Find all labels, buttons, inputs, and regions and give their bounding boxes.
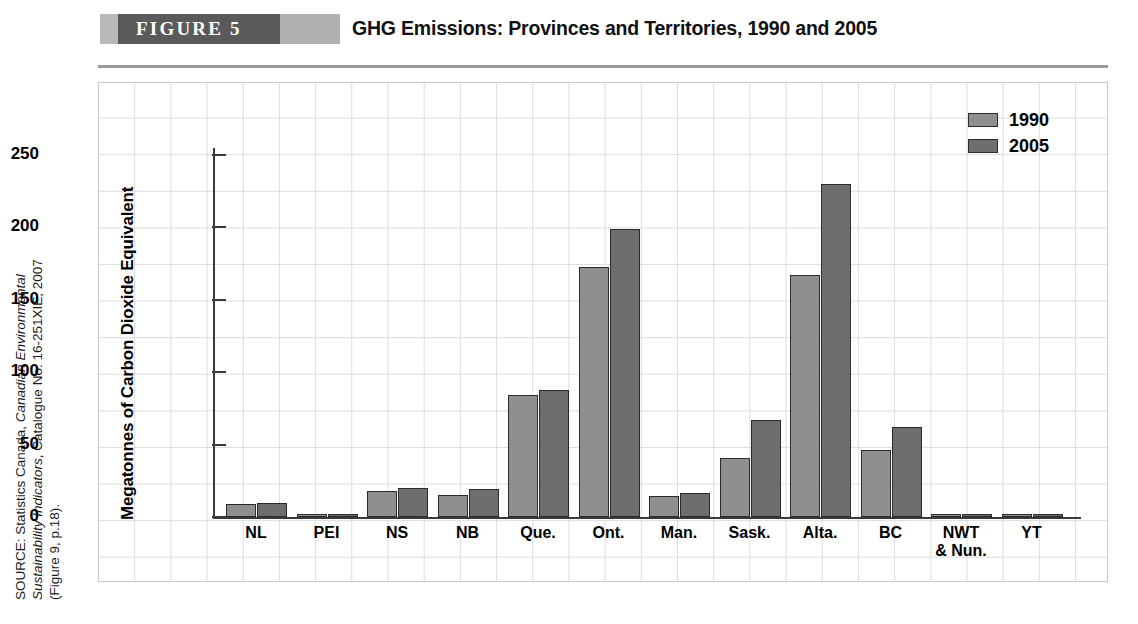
bar-PEI-1990 [297,514,327,517]
source-note: SOURCE: Statistics Canada, Canadian Envi… [0,0,62,624]
legend-item-1990: 1990 [968,107,1098,133]
bar-group: NL [221,138,292,517]
bar-BC-1990 [861,450,891,517]
y-axis-title: Megatonnes of Carbon Dioxide Equivalent [118,187,138,520]
bar-Man-1990 [649,496,679,517]
bar-NS-1990 [367,491,397,517]
figure-header: FIGURE 5 GHG Emissions: Provinces and Te… [0,0,1138,72]
bar-PEI-2005 [328,514,358,517]
bar-NL-2005 [257,503,287,517]
bar-group: Ont. [574,138,645,517]
bar-BC-2005 [892,427,922,517]
bar-Sask-1990 [720,458,750,517]
bar-YT-2005 [1033,514,1063,517]
bar-group: NS [362,138,433,517]
y-axis-label: 100 [0,361,39,381]
bar-YT-1990 [1002,514,1032,517]
bar-group: Man. [644,138,715,517]
bar-Ont-1990 [579,267,609,518]
bar-NB-1990 [438,495,468,517]
bar-NS-2005 [398,488,428,517]
bar-NB-2005 [469,489,499,517]
x-axis-label: YT [989,524,1075,542]
header-divider [98,65,1108,68]
bar-Que-1990 [508,395,538,517]
bar-NL-1990 [226,504,256,517]
legend-swatch-1990 [968,113,998,127]
bar-group: Alta. [785,138,856,517]
y-axis-label: 50 [0,434,39,454]
bar-NWTNun-1990 [931,514,961,517]
bar-Man-2005 [680,493,710,517]
source-line-3: (Figure 9, p.18). [47,504,62,600]
bar-Alta-1990 [790,275,820,517]
bar-group: YT [997,138,1068,517]
legend-label-1990: 1990 [1009,110,1049,131]
bar-group: PEI [292,138,363,517]
source-line-2: Sustainability Indicators, Catalogue No.… [30,259,45,600]
source-line-2-italic: Sustainability Indicators [30,458,45,600]
bar-group: NB [433,138,504,517]
bar-NWTNun-2005 [962,514,992,517]
plot-area: 050100150200250 NLPEINSNBQue.Ont.Man.Sas… [213,140,1083,519]
bar-group: Sask. [715,138,786,517]
x-axis-line [213,517,1081,519]
figure-number-badge: FIGURE 5 [100,14,340,44]
y-axis-line [213,148,215,519]
y-axis-label: 150 [0,289,39,309]
bar-Alta-2005 [821,184,851,517]
y-axis-label: 250 [0,144,39,164]
figure-number-label: FIGURE 5 [136,18,242,40]
bar-Sask-2005 [751,420,781,517]
figure-title: GHG Emissions: Provinces and Territories… [352,17,877,40]
bar-Ont-2005 [610,229,640,517]
y-axis-label: 0 [0,506,39,526]
bar-Que-2005 [539,390,569,517]
bar-group: Que. [503,138,574,517]
bar-group: BC [856,138,927,517]
y-axis-label: 200 [0,216,39,236]
bar-group: NWT& Nun. [926,138,997,517]
